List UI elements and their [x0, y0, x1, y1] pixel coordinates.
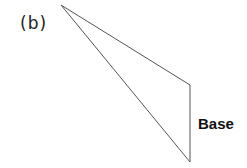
panel-label: (b): [20, 13, 47, 33]
diagram-canvas: (b) Base: [0, 0, 247, 168]
base-label: Base: [198, 115, 234, 132]
